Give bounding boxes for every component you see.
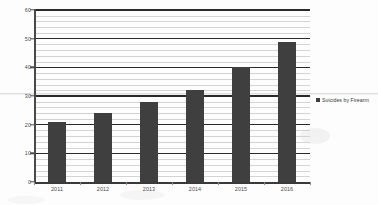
- gridline-major: [34, 124, 310, 126]
- bar-2014: [186, 90, 204, 182]
- gridline-minor: [34, 73, 310, 74]
- legend-color-swatch: [316, 98, 320, 102]
- x-tick-mark: [218, 182, 219, 185]
- x-tick-mark: [310, 182, 311, 185]
- gridline-minor: [34, 33, 310, 34]
- y-tick-label: 10: [7, 150, 31, 156]
- gridline-major: [34, 9, 310, 11]
- gridline-minor: [34, 16, 310, 17]
- bar-2013: [140, 102, 158, 182]
- gridline-minor: [34, 27, 310, 28]
- gridline-major: [34, 67, 310, 69]
- x-tick-label-2013: 2013: [143, 186, 155, 192]
- gridline-minor: [34, 50, 310, 51]
- x-axis-ticks: 201120122013201420152016: [34, 186, 311, 200]
- y-tick-label: 50: [7, 36, 31, 42]
- y-tick-label: 40: [7, 64, 31, 70]
- gridline-minor: [34, 21, 310, 22]
- x-tick-label-2016: 2016: [281, 186, 293, 192]
- bar-2011: [48, 122, 66, 182]
- gridline-major: [34, 95, 310, 97]
- y-axis-line: [34, 9, 36, 183]
- x-tick-label-2011: 2011: [51, 186, 63, 192]
- y-axis-ticks: 0102030405060: [0, 0, 31, 205]
- gridline-minor: [34, 136, 310, 137]
- x-tick-mark: [34, 182, 35, 185]
- gridline-minor: [34, 62, 310, 63]
- gridline-minor: [34, 44, 310, 45]
- gridline-minor: [34, 176, 310, 177]
- bar-chart-figure: 0102030405060 201120122013201420152016 S…: [0, 0, 378, 205]
- gridline-minor: [34, 102, 310, 103]
- y-tick-mark: [30, 153, 34, 154]
- gridline-minor: [34, 56, 310, 57]
- gridline-minor: [34, 119, 310, 120]
- x-tick-label-2012: 2012: [97, 186, 109, 192]
- x-tick-label-2014: 2014: [189, 186, 201, 192]
- gridline-minor: [34, 159, 310, 160]
- gridline-minor: [34, 142, 310, 143]
- gridline-minor: [34, 85, 310, 86]
- gridline-minor: [34, 165, 310, 166]
- gridline-minor: [34, 130, 310, 131]
- y-tick-label: 60: [7, 7, 31, 13]
- y-tick-label: 30: [7, 93, 31, 99]
- y-tick-mark: [30, 67, 34, 68]
- x-tick-label-2015: 2015: [235, 186, 247, 192]
- gridline-minor: [34, 79, 310, 80]
- gridline-minor: [34, 171, 310, 172]
- y-tick-mark: [30, 9, 34, 10]
- gridline-major: [34, 38, 310, 40]
- y-tick-mark: [30, 124, 34, 125]
- bar-2015: [232, 67, 250, 182]
- legend-item-label: Suicides by Firearm: [322, 97, 369, 103]
- y-tick-label: 20: [7, 122, 31, 128]
- gridline-major: [34, 153, 310, 155]
- y-tick-mark: [30, 38, 34, 39]
- x-tick-mark: [264, 182, 265, 185]
- bar-2012: [94, 113, 112, 182]
- gridline-minor: [34, 148, 310, 149]
- plot-area: [34, 10, 310, 182]
- y-tick-label: 0: [7, 179, 31, 185]
- x-tick-mark: [126, 182, 127, 185]
- gridline-minor: [34, 107, 310, 108]
- chart-legend: Suicides by Firearm: [316, 97, 369, 103]
- gridline-minor: [34, 113, 310, 114]
- bar-2016: [278, 42, 296, 182]
- gridline-minor: [34, 90, 310, 91]
- x-tick-mark: [172, 182, 173, 185]
- y-tick-mark: [30, 95, 34, 96]
- x-tick-mark: [80, 182, 81, 185]
